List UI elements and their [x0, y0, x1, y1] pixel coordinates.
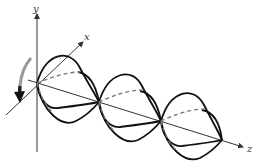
y-axis-label: y: [32, 3, 39, 14]
wave-segment-1: [37, 56, 99, 123]
polarized-wave-diagram: y x z: [0, 0, 257, 168]
wave-segment-3: [161, 93, 222, 159]
x-axis-label: x: [84, 31, 90, 42]
z-axis-label: z: [246, 143, 253, 154]
wave-segment-2: [99, 74, 161, 141]
